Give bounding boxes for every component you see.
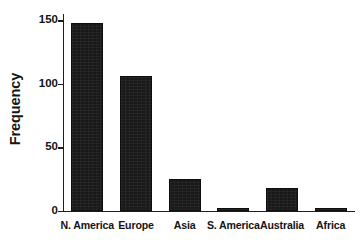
x-axis-tick-label: Australia bbox=[260, 220, 304, 232]
bar-chart-figure: Frequency 050100150 N. AmericaEuropeAsia… bbox=[0, 0, 361, 246]
x-axis-tick-label: Asia bbox=[174, 220, 196, 232]
y-axis-title: Frequency bbox=[0, 0, 30, 218]
bar bbox=[266, 188, 298, 211]
bars-layer bbox=[63, 14, 355, 211]
x-axis-tick-label: N. America bbox=[61, 220, 114, 232]
bar bbox=[217, 208, 249, 211]
bar bbox=[315, 208, 347, 211]
y-axis-title-text: Frequency bbox=[7, 73, 23, 145]
x-axis-tick-label: Europe bbox=[118, 220, 154, 232]
y-axis-tick-mark bbox=[58, 211, 63, 212]
y-axis-tick-label: 100 bbox=[32, 78, 58, 90]
x-axis-line bbox=[62, 211, 355, 212]
y-axis-tick-labels: 050100150 bbox=[30, 0, 58, 246]
y-axis-tick-label: 150 bbox=[32, 15, 58, 27]
x-axis-tick-label: S. America bbox=[207, 220, 260, 232]
y-axis-tick-label: 50 bbox=[32, 142, 58, 154]
y-axis-tick-label: 0 bbox=[32, 205, 58, 217]
x-axis-tick-labels: N. AmericaEuropeAsiaS. AmericaAustraliaA… bbox=[63, 220, 355, 242]
bar bbox=[120, 76, 152, 211]
bar bbox=[169, 179, 201, 211]
plot-area bbox=[63, 14, 355, 211]
x-axis-tick-label: Africa bbox=[316, 220, 345, 232]
bar bbox=[71, 23, 103, 211]
